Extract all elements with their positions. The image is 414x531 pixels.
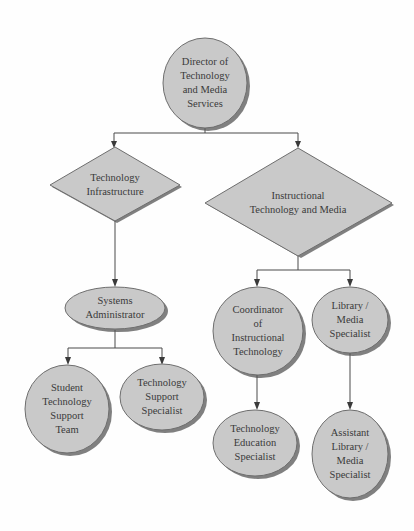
arrow-down-icon <box>254 402 260 410</box>
nodes <box>25 38 392 498</box>
arrow-down-icon <box>112 279 118 287</box>
node-coordinator-shape <box>213 287 303 375</box>
arrow-down-icon <box>347 402 353 410</box>
node-systems-admin-shape <box>65 287 165 329</box>
arrow-down-icon <box>65 357 71 365</box>
node-tech-support-specialist-shape <box>120 364 204 430</box>
org-chart-graphics <box>0 0 414 531</box>
arrow-down-icon <box>111 141 117 148</box>
arrow-down-icon <box>347 279 353 287</box>
node-library-media-shape <box>312 287 388 353</box>
node-tech-education-specialist-shape <box>213 410 297 476</box>
node-tech-infrastructure-shape <box>50 147 180 221</box>
arrow-down-icon <box>254 279 260 287</box>
node-assistant-library-shape <box>312 410 388 498</box>
arrow-down-icon <box>295 141 301 148</box>
node-student-support-team-shape <box>25 365 109 453</box>
node-director-shape <box>163 38 247 128</box>
node-instructional-tech-shape <box>205 148 392 256</box>
org-chart-canvas: Director of Technology and Media Service… <box>0 0 414 531</box>
